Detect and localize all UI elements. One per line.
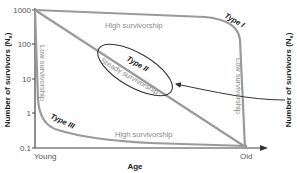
type-1-low-survivorship: Low survivorship	[234, 58, 243, 114]
pointer-arrow-icon	[176, 84, 285, 100]
x-tick-old: Old	[240, 152, 252, 161]
tick-100: 100	[18, 40, 32, 49]
type-2-ellipse	[90, 34, 180, 105]
x-axis-arrow-icon	[260, 145, 268, 151]
tick-0-1: 0.1	[20, 144, 32, 153]
x-axis-label: Age	[127, 162, 143, 171]
x-tick-young: Young	[34, 152, 56, 161]
type-1-high-survivorship: High survivorship	[105, 21, 163, 30]
type-3-high-survivorship: High survivorship	[115, 130, 173, 139]
right-axis-label: Number of survivors (Nx)	[284, 32, 294, 127]
y-axis-label: Number of survivors (Nx)	[3, 32, 13, 127]
tick-1000: 1000	[13, 6, 31, 15]
survivorship-curves-diagram: 1000 100 10 1 0.1 Young Old Number of su…	[0, 0, 297, 173]
tick-1: 1	[27, 109, 32, 118]
tick-10: 10	[22, 75, 31, 84]
type-3-low-survivorship: Low survivorship	[38, 45, 47, 101]
